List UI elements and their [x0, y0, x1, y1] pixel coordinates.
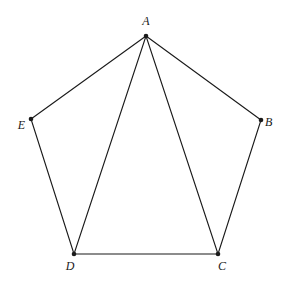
diagonal-ad	[74, 36, 146, 254]
side-de	[31, 119, 74, 254]
pentagon-diagram: ABCDE	[0, 0, 288, 283]
vertex-d	[72, 252, 77, 257]
side-ab	[146, 36, 261, 120]
side-bc	[218, 120, 261, 254]
vertex-label-d: D	[65, 259, 75, 273]
labels-group: ABCDE	[17, 14, 273, 273]
vertex-label-b: B	[265, 115, 273, 129]
vertex-label-e: E	[17, 118, 26, 132]
vertex-b	[259, 118, 264, 123]
vertex-a	[144, 34, 149, 39]
vertex-e	[29, 117, 34, 122]
vertex-label-a: A	[141, 14, 150, 28]
side-ea	[31, 36, 146, 119]
diagonal-ac	[146, 36, 218, 254]
vertex-c	[216, 252, 221, 257]
vertex-label-c: C	[218, 259, 227, 273]
segments-group	[31, 36, 261, 254]
